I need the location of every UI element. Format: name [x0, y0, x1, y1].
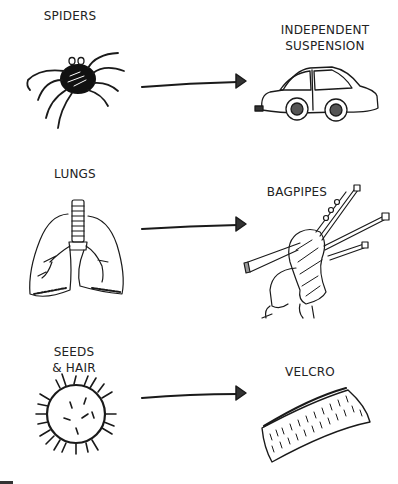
bagpipes-icon — [244, 185, 389, 318]
arrow-icon — [142, 217, 246, 231]
car-icon — [255, 67, 378, 121]
burr-seed-icon — [36, 374, 116, 454]
spider-icon — [27, 53, 124, 128]
arrow-icon — [142, 74, 246, 88]
arrow-icon — [142, 386, 246, 400]
velcro-icon — [262, 388, 370, 462]
lungs-icon — [30, 200, 124, 296]
